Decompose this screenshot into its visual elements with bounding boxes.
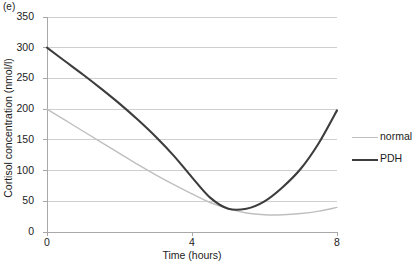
legend-item-pdh[interactable]: PDH [352, 149, 416, 171]
legend-label-pdh: PDH [380, 151, 402, 165]
legend-swatch-normal [352, 137, 378, 138]
legend-item-normal[interactable]: normal [352, 127, 416, 149]
x-tick-label-4: 4 [177, 236, 207, 248]
legend-label-normal: normal [380, 129, 412, 143]
legend-swatch-pdh [352, 159, 378, 161]
x-tick-label-8: 8 [322, 236, 352, 248]
x-axis-title: Time (hours) [47, 249, 337, 262]
x-tick-label-0: 0 [32, 236, 62, 248]
legend: normalPDH [352, 127, 416, 171]
chart-figure: (e) Cortisol concentration (nmol/l) 0501… [0, 0, 416, 264]
